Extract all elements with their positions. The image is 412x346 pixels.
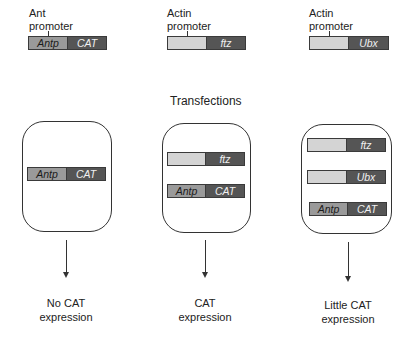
antp-cat-construct: Antp CAT: [28, 36, 107, 50]
ubx-gene-segment: Ubx: [349, 37, 388, 49]
result-line-1: No CAT: [16, 296, 116, 310]
actin-ubx-construct: Ubx: [309, 36, 389, 50]
cat-gene-segment: CAT: [206, 185, 244, 197]
antp-promoter-segment: Antp: [168, 185, 206, 197]
cell2-actin-ftz-construct: ftz: [167, 152, 245, 166]
ubx-gene-segment: Ubx: [347, 171, 385, 183]
label-line-1: Actin: [309, 7, 353, 20]
cat-gene-segment: CAT: [348, 203, 386, 215]
label-line-1: Ant: [29, 7, 73, 20]
cell-2: [162, 123, 251, 233]
arrow-down-icon: [63, 272, 69, 278]
cell3-actin-ubx-construct: Ubx: [307, 170, 386, 184]
cell3-antp-cat-construct: Antp CAT: [309, 202, 387, 216]
cat-gene-segment: CAT: [67, 168, 105, 180]
actin-promoter-segment: [308, 139, 347, 151]
result-2: CAT expression: [155, 296, 255, 324]
arrow-1-line: [66, 240, 67, 272]
result-line-2: expression: [298, 312, 398, 326]
label-line-2: promoter: [167, 20, 211, 33]
actin-promoter-segment: [168, 153, 206, 165]
result-line-1: CAT: [155, 296, 255, 310]
cell1-antp-cat-construct: Antp CAT: [27, 167, 106, 181]
label-line-2: promoter: [309, 20, 353, 33]
cell2-antp-cat-construct: Antp CAT: [167, 184, 245, 198]
label-line-1: Actin: [167, 7, 211, 20]
result-line-1: Little CAT: [298, 298, 398, 312]
actin-promoter-segment: [310, 37, 349, 49]
transfections-title: Transfections: [170, 94, 242, 108]
arrow-down-icon: [202, 272, 208, 278]
actin-ftz-construct: ftz: [167, 36, 246, 50]
result-3: Little CAT expression: [298, 298, 398, 326]
cell3-actin-ftz-construct: ftz: [307, 138, 386, 152]
antp-promoter-segment: Antp: [29, 37, 68, 49]
ftz-gene-segment: ftz: [207, 37, 245, 49]
actin-promoter-segment: [168, 37, 207, 49]
label-line-2: promoter: [29, 20, 73, 33]
antp-promoter-segment: Antp: [28, 168, 67, 180]
ant-promoter-label: Ant promoter: [29, 7, 73, 33]
arrow-2-line: [205, 240, 206, 272]
actin-promoter-label-ubx: Actin promoter: [309, 7, 353, 33]
ftz-gene-segment: ftz: [206, 153, 244, 165]
arrow-down-icon: [345, 276, 351, 282]
result-line-2: expression: [155, 310, 255, 324]
cat-gene-segment: CAT: [68, 37, 106, 49]
actin-promoter-label-ftz: Actin promoter: [167, 7, 211, 33]
ftz-gene-segment: ftz: [347, 139, 385, 151]
result-line-2: expression: [16, 310, 116, 324]
arrow-3-line: [348, 242, 349, 276]
result-1: No CAT expression: [16, 296, 116, 324]
actin-promoter-segment: [308, 171, 347, 183]
antp-promoter-segment: Antp: [310, 203, 348, 215]
